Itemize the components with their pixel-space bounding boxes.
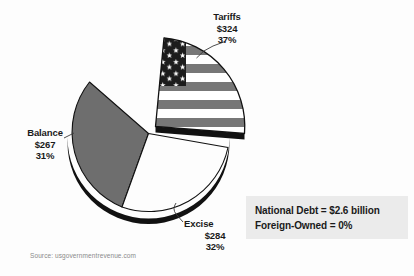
summary-info-box: National Debt = $2.6 billion Foreign-Own… [246,196,408,239]
slice-label-tariffs-value: $324 [196,23,258,35]
slice-label-excise-percent: 32% [184,241,246,253]
pie-chart-figure: Tariffs $324 37% Balance $267 31% Excise… [0,0,414,276]
foreign-owned-line: Foreign-Owned = 0% [255,220,408,231]
slice-label-excise-name: Excise [184,218,246,230]
source-attribution: Source: usgovernmentrevenue.com [30,252,136,259]
national-debt-line: National Debt = $2.6 billion [255,205,408,216]
slice-label-balance-name: Balance [14,127,76,139]
slice-label-tariffs-name: Tariffs [196,11,258,23]
slice-label-balance-percent: 31% [14,150,76,162]
slice-label-tariffs-percent: 37% [196,34,258,46]
slice-label-balance-value: $267 [14,139,76,151]
slice-label-tariffs: Tariffs $324 37% [196,11,258,46]
slice-label-excise: Excise $284 32% [184,218,246,253]
slice-label-excise-value: $284 [184,230,246,242]
flag-canton [100,30,186,86]
slice-label-balance: Balance $267 31% [14,127,76,162]
